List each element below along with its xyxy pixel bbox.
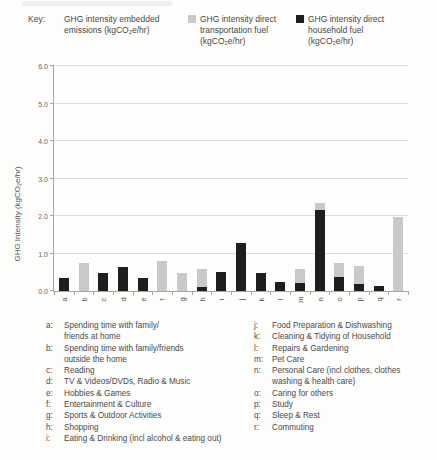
legend-item-letter: g: [46,410,64,421]
key-entry-transportation-fuel: GHG intensity direct transportation fuel… [200,14,294,47]
x-tick-label: k [256,296,265,304]
legend-item-label: Shopping [64,422,286,433]
x-axis-tick [290,291,291,295]
x-tick-label: h [197,296,206,304]
bar-segment [256,273,266,291]
figure-page: Key: GHG intensity embedded emissions (k… [0,0,437,460]
x-axis-tick [152,291,153,295]
bar-segment [197,269,207,287]
bar-segment [354,284,364,291]
legend-item: c:Reading [46,365,286,376]
stacked-bar [138,278,148,291]
stacked-bar [98,273,108,291]
legend-item-letter: a: [46,320,64,343]
legend-item: n:Personal Care (incl clothes, clothes w… [254,365,434,388]
bar-slot: h [192,66,212,291]
x-axis-tick [54,291,55,295]
legend-item-label: Cleaning & Tidying of Household [272,331,434,342]
legend-item: g:Sports & Outdoor Activities [46,410,286,421]
x-tick-label: a [59,296,68,304]
legend-item-letter: j: [254,320,272,331]
bar-slot: p [349,66,369,291]
legend-item: b:Spending time with family/friends outs… [46,343,286,366]
legend-item-label: Spending time with family/ friends at ho… [64,320,286,343]
legend-item-letter: n: [254,365,272,388]
x-tick-label: i [217,296,226,304]
bars-container: abcdefghijklmnopqr [54,66,408,291]
x-tick-label: n [315,296,324,304]
bar-segment [315,210,325,291]
bar-segment [334,263,344,277]
x-axis-tick [133,291,134,295]
x-tick-label: r [394,296,403,304]
bar-segment [216,272,226,291]
x-tick-label: b [79,296,88,304]
bar-segment [79,263,89,291]
cutoff-text-fragment [22,1,172,6]
bar-segment [177,273,187,291]
x-tick-label: p [354,296,363,304]
x-axis-tick [349,291,350,295]
bar-segment [98,273,108,291]
bar-segment [275,282,285,291]
bar-segment [118,267,128,291]
bar-slot: d [113,66,133,291]
legend-item: j:Food Preparation & Dishwashing [254,320,434,331]
x-axis-tick [74,291,75,295]
bar-slot: q [369,66,389,291]
activity-legend-right-column: j:Food Preparation & Dishwashingk:Cleani… [254,320,434,433]
bar-slot: e [133,66,153,291]
bar-segment [197,287,207,291]
x-tick-label: f [158,296,167,304]
legend-item-label: Hobbies & Games [64,388,286,399]
bar-slot: j [231,66,251,291]
stacked-bar [374,286,384,291]
bar-slot: f [152,66,172,291]
stacked-bar [236,243,246,291]
bar-segment [393,217,403,291]
legend-item: q:Sleep & Rest [254,410,434,421]
bar-slot: i [211,66,231,291]
legend-item-label: Sleep & Rest [272,410,434,421]
legend-item-letter: q: [254,410,272,421]
x-axis-tick [211,291,212,295]
legend-item-label: Eating & Drinking (incl alcohol & eating… [64,433,286,444]
stacked-bar [275,282,285,291]
legend-item: k:Cleaning & Tidying of Household [254,331,434,342]
x-axis-tick [408,291,409,295]
legend-item: m:Pet Care [254,354,434,365]
legend-item-label: TV & Videos/DVDs, Radio & Music [64,376,286,387]
x-axis-tick [388,291,389,295]
stacked-bar [177,273,187,291]
legend-item-letter: d: [46,376,64,387]
stacked-bar [315,203,325,291]
x-tick-label: m [295,296,304,304]
stacked-bar [295,269,305,291]
bar-slot: r [388,66,408,291]
legend-item-label: Caring for others [272,388,434,399]
bar-slot: a [54,66,74,291]
legend-item-label: Sports & Outdoor Activities [64,410,286,421]
legend-item-letter: i: [46,433,64,444]
legend-item-label: Reading [64,365,286,376]
legend-item: d:TV & Videos/DVDs, Radio & Music [46,376,286,387]
bar-slot: c [93,66,113,291]
bar-segment [334,277,344,291]
bar-segment [295,269,305,283]
bar-slot: m [290,66,310,291]
legend-item: a:Spending time with family/ friends at … [46,320,286,343]
x-axis-tick [329,291,330,295]
legend-item-letter: e: [46,388,64,399]
x-tick-label: j [236,296,245,304]
stacked-bar [354,266,364,291]
transportation-fuel-swatch-icon [188,15,196,23]
y-tick-label: 2.0 [26,213,48,220]
legend-item: h:Shopping [46,422,286,433]
x-tick-label: e [138,296,147,304]
legend-item-label: Food Preparation & Dishwashing [272,320,434,331]
y-tick-label: 5.0 [26,101,48,108]
stacked-bar [79,263,89,291]
legend-item-label: Commuting [272,422,434,433]
legend-item-letter: r: [254,422,272,433]
legend-item-label: Repairs & Gardening [272,343,434,354]
